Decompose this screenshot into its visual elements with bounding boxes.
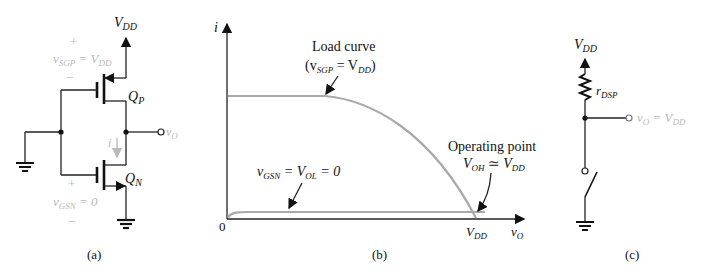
ground-icon-c [576, 222, 594, 230]
load-curve-title: Load curve [312, 39, 375, 54]
input-junction-dot [58, 129, 63, 134]
resistor-icon [580, 74, 590, 100]
output-label-c: vO = VDD [637, 110, 686, 127]
operating-point-pointer-icon [478, 173, 491, 211]
x-axis-label: vO [511, 224, 524, 241]
open-switch-icon [582, 168, 597, 221]
x-tick-vdd-label: VDD [466, 224, 487, 241]
output-terminal-c [626, 115, 632, 121]
figure-canvas: VDD QP + vSGP = VDD − vO i [0, 0, 703, 275]
pmos-source-arrow-icon [104, 73, 114, 83]
load-curve [228, 96, 476, 218]
nmos-vgs-label: vGSN = 0 [53, 194, 98, 211]
nmos-cutoff-curve [228, 212, 485, 217]
pmos-vsg-label: vSGP = VDD [53, 51, 112, 68]
nmos-plus-sign: + [68, 176, 75, 191]
vdd-label-c: VDD [574, 37, 598, 54]
vdd-label: VDD [114, 15, 138, 32]
current-label: i [108, 136, 111, 150]
panel-a-cmos-inverter: VDD QP + vSGP = VDD − vO i [16, 15, 178, 262]
y-axis-label: i [214, 20, 218, 35]
panel-b-load-curve-plot: i 0 VDD vO Load curve (vSGP = VDD) vGSN … [214, 20, 536, 262]
operating-point-title: Operating point [448, 139, 536, 154]
nmos-curve-label: vGSN = VOL = 0 [257, 164, 340, 181]
pmos-minus-sign: − [66, 70, 74, 85]
output-label: vO [166, 125, 178, 141]
output-terminal [158, 129, 164, 135]
origin-label: 0 [219, 219, 226, 234]
panel-c-equivalent-circuit: VDD rDSP vO = VDD (c) [574, 37, 686, 262]
operating-point-condition: VOH ≃ VDD [463, 156, 525, 173]
output-junction-dot [123, 129, 128, 134]
caption-c: (c) [625, 247, 639, 262]
nmos-curve-pointer-icon [289, 183, 302, 208]
resistor-label: rDSP [596, 83, 618, 100]
load-curve-condition: (vSGP = VDD) [305, 58, 376, 75]
pmos-label: QP [128, 89, 144, 106]
load-curve-pointer-icon [326, 76, 338, 94]
pmos-plus-sign: + [70, 34, 77, 49]
nmos-label: QN [125, 171, 143, 188]
nmos-minus-sign: − [68, 214, 76, 229]
output-ground-icon [117, 220, 135, 228]
caption-b: (b) [372, 247, 387, 262]
caption-a: (a) [87, 247, 101, 262]
input-ground-icon [16, 163, 34, 171]
